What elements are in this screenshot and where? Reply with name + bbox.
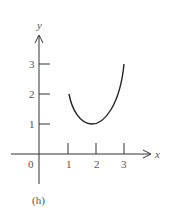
y-tick-label-1: 1 <box>29 118 35 130</box>
y-tick-label-3: 3 <box>29 58 35 70</box>
x-axis-label: x <box>154 148 160 160</box>
x-tick-label-3: 3 <box>121 158 127 170</box>
chart: y x 3 2 1 0 1 2 3 (h) <box>0 0 173 219</box>
y-tick-label-2: 2 <box>29 88 35 100</box>
x-tick-label-2: 2 <box>94 158 100 170</box>
curve <box>69 64 124 124</box>
y-axis-label: y <box>36 19 42 31</box>
figure-caption: (h) <box>32 194 45 207</box>
origin-label: 0 <box>28 158 34 170</box>
x-tick-label-1: 1 <box>66 158 72 170</box>
